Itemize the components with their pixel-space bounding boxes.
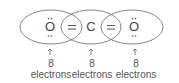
atom-carbon: C [85,19,97,34]
atom-left-oxygen: O [44,19,56,34]
label-right: 8 electrons [106,58,166,80]
electron-text: electrons [106,69,166,80]
double-bond-right [107,26,115,30]
atom-right-oxygen: O [128,19,140,34]
double-bond-left [68,26,76,30]
electron-count: 8 [106,58,166,69]
arrows [48,49,137,55]
